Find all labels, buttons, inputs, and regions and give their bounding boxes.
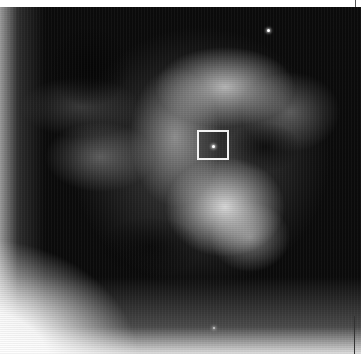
image-noise: [0, 7, 361, 354]
nebula-image: [0, 7, 361, 354]
bottom-right-edge-line: [354, 316, 355, 354]
top-right-edge-line: [355, 0, 356, 7]
bottom-star-icon: [213, 327, 215, 329]
central-star-icon: [212, 145, 215, 148]
image-frame: [0, 0, 361, 354]
upper-right-star-icon: [267, 29, 270, 32]
